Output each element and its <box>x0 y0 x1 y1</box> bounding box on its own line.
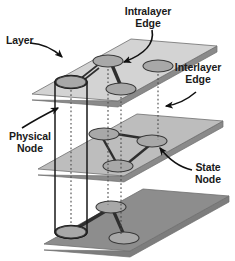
state-node[interactable] <box>56 226 86 238</box>
state-node[interactable] <box>56 76 86 88</box>
state-node[interactable] <box>137 135 167 147</box>
interlayer-edge-arrow <box>166 92 196 106</box>
state-node[interactable] <box>109 232 139 244</box>
interlayer-edge-label-line2: Edge <box>164 74 232 86</box>
state-node[interactable] <box>103 160 133 172</box>
intralayer-edge-label: Intralayer Edge <box>110 6 186 29</box>
layer-label: Layer <box>6 35 34 47</box>
physical-node-arrow <box>22 108 58 128</box>
state-node[interactable] <box>89 128 119 140</box>
interlayer-edge-label-line1: Interlayer <box>164 62 232 74</box>
state-node[interactable] <box>93 55 123 67</box>
physical-node-label: Physical Node <box>2 131 58 154</box>
physical-node-label-line1: Physical <box>2 131 58 143</box>
physical-node-label-line2: Node <box>2 143 58 155</box>
intralayer-edge-label-line2: Edge <box>110 18 186 30</box>
state-node[interactable] <box>106 83 136 95</box>
state-node-label-line2: Node <box>186 174 230 186</box>
state-node-label-line1: State <box>186 162 230 174</box>
diagram-canvas: Layer Intralayer Edge Interlayer Edge Ph… <box>0 0 235 261</box>
interlayer-edge-label: Interlayer Edge <box>164 62 232 85</box>
bottom-layer <box>44 189 229 257</box>
layer-arrow <box>30 43 62 57</box>
layer-label-text: Layer <box>6 35 34 47</box>
state-node-label: State Node <box>186 162 230 185</box>
state-node[interactable] <box>96 201 126 213</box>
intralayer-edge-label-line1: Intralayer <box>110 6 186 18</box>
